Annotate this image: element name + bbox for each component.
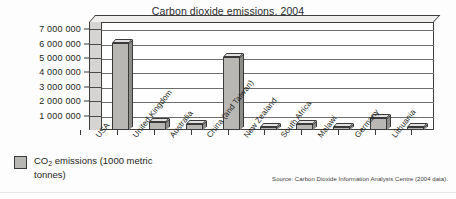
legend-subscript: 2 [48,160,52,167]
bar-usa [112,43,129,130]
bar-side-face [166,118,170,130]
bar-united-kingdom [149,122,166,130]
source-note: Source: Carbon Dioxide Information Analy… [272,176,448,182]
legend-swatch [14,156,27,169]
y-tick-label: 7 000 000 [39,24,81,34]
y-tick-label: 1 000 000 [39,111,81,121]
bar-front-face [149,122,166,130]
bar-side-face [350,123,354,130]
chart-figure: Carbon dioxide emissions, 2004 7 000 000… [0,0,456,199]
bar-side-face [313,120,317,130]
bottom-divider [0,192,456,193]
bar-side-face [387,114,391,130]
bar-front-face [112,43,129,130]
y-axis: 7 000 0006 000 0005 000 0004 000 0003 00… [22,22,84,130]
y-tick-label: 4 000 000 [39,67,81,77]
bar-side-face [203,121,207,130]
axis-side-wall [89,22,102,130]
axis-wall-face [89,22,102,130]
y-tick-label: 2 000 000 [39,96,81,106]
y-tick-label: 5 000 000 [39,53,81,63]
chart-legend: CO2 emissions (1000 metric tonnes) [14,155,159,181]
y-tick-label: 3 000 000 [39,82,81,92]
y-tick-label: 6 000 000 [39,39,81,49]
legend-label: CO2 emissions (1000 metric tonnes) [34,155,159,181]
plot-top-cap [89,15,440,22]
bar-side-face [129,39,133,130]
